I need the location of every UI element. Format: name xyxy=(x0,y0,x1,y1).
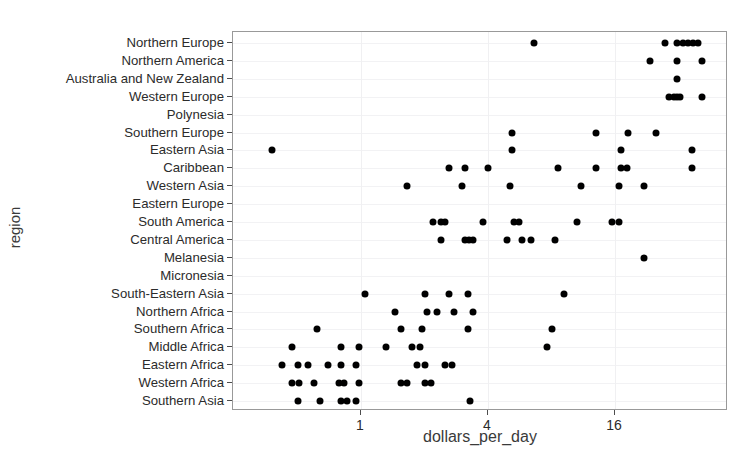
data-point xyxy=(464,290,471,297)
data-point xyxy=(647,57,654,64)
y-axis-tick-label-southern-europe: Southern Europe xyxy=(26,125,224,138)
data-point xyxy=(470,236,477,243)
gridline-vertical xyxy=(488,32,489,409)
gridline-horizontal xyxy=(233,329,726,330)
data-point xyxy=(416,344,423,351)
data-point xyxy=(699,57,706,64)
data-point xyxy=(674,75,681,82)
y-axis-tick-label-northern-europe: Northern Europe xyxy=(26,36,224,49)
data-point xyxy=(694,40,701,47)
data-point xyxy=(392,308,399,315)
data-point xyxy=(458,183,465,190)
y-axis-tick-mark xyxy=(227,382,232,383)
data-point xyxy=(592,129,599,136)
gridline-horizontal xyxy=(233,168,726,169)
data-point xyxy=(592,165,599,172)
data-point xyxy=(448,362,455,369)
y-axis-tick-mark xyxy=(227,132,232,133)
y-axis-tick-label-western-asia: Western Asia xyxy=(26,179,224,192)
data-point xyxy=(551,236,558,243)
data-point xyxy=(288,344,295,351)
data-point xyxy=(434,308,441,315)
data-point xyxy=(403,380,410,387)
y-axis-tick-label-micronesia: Micronesia xyxy=(26,268,224,281)
gridline-horizontal xyxy=(233,186,726,187)
data-point xyxy=(362,290,369,297)
gridline-horizontal xyxy=(233,258,726,259)
data-point xyxy=(294,398,301,405)
data-point xyxy=(278,362,285,369)
data-point xyxy=(398,326,405,333)
y-axis-title-text: region xyxy=(7,207,24,249)
data-point xyxy=(356,344,363,351)
data-point xyxy=(688,165,695,172)
data-point xyxy=(561,290,568,297)
data-point xyxy=(548,326,555,333)
data-point xyxy=(530,40,537,47)
data-point xyxy=(311,380,318,387)
y-axis-tick-mark xyxy=(227,257,232,258)
data-point xyxy=(625,129,632,136)
data-point xyxy=(294,362,301,369)
y-axis-tick-label-southern-asia: Southern Asia xyxy=(26,394,224,407)
data-point xyxy=(428,380,435,387)
y-axis-tick-label-northern-america: Northern America xyxy=(26,53,224,66)
gridline-horizontal xyxy=(233,204,726,205)
gridline-horizontal xyxy=(233,43,726,44)
y-axis-tick-label-western-europe: Western Europe xyxy=(26,89,224,102)
y-axis-tick-label-south-america: South America xyxy=(26,215,224,228)
data-point xyxy=(509,147,516,154)
data-point xyxy=(445,290,452,297)
y-axis-tick-label-southern-africa: Southern Africa xyxy=(26,322,224,335)
y-axis-tick-label-northern-africa: Northern Africa xyxy=(26,304,224,317)
data-point xyxy=(403,183,410,190)
data-point xyxy=(676,93,683,100)
data-point xyxy=(485,165,492,172)
y-axis-tick-mark xyxy=(227,78,232,79)
data-point xyxy=(503,236,510,243)
data-point xyxy=(441,362,448,369)
data-point xyxy=(304,362,311,369)
data-point xyxy=(450,308,457,315)
y-axis-tick-mark xyxy=(227,275,232,276)
y-axis-tick-mark xyxy=(227,167,232,168)
x-axis-tick-mark xyxy=(360,410,361,415)
x-axis-title: dollars_per_day xyxy=(232,428,728,446)
gridline-horizontal xyxy=(233,240,726,241)
data-point xyxy=(464,326,471,333)
y-axis-tick-label-eastern-asia: Eastern Asia xyxy=(26,143,224,156)
data-point xyxy=(423,308,430,315)
y-axis-tick-mark xyxy=(227,364,232,365)
data-point xyxy=(461,165,468,172)
data-point xyxy=(609,219,616,226)
data-point xyxy=(337,362,344,369)
data-point xyxy=(421,290,428,297)
data-point xyxy=(543,344,550,351)
data-point xyxy=(409,344,416,351)
y-axis-tick-mark xyxy=(227,185,232,186)
x-axis-tick-mark xyxy=(614,410,615,415)
data-point xyxy=(467,398,474,405)
gridline-vertical xyxy=(361,32,362,409)
y-axis-tick-label-south-eastern-asia: South-Eastern Asia xyxy=(26,286,224,299)
gridline-horizontal xyxy=(233,150,726,151)
data-point xyxy=(515,219,522,226)
data-point xyxy=(438,236,445,243)
y-axis-tick-label-central-america: Central America xyxy=(26,232,224,245)
y-axis-tick-mark xyxy=(227,400,232,401)
x-axis-tick-mark xyxy=(487,410,488,415)
data-point xyxy=(652,129,659,136)
data-point xyxy=(507,183,514,190)
data-point xyxy=(519,236,526,243)
data-point xyxy=(317,398,324,405)
y-axis-tick-labels: Northern EuropeNorthern AmericaAustralia… xyxy=(26,0,224,455)
data-point xyxy=(314,326,321,333)
y-axis-tick-mark xyxy=(227,149,232,150)
data-point xyxy=(383,344,390,351)
data-point xyxy=(574,219,581,226)
gridline-horizontal xyxy=(233,97,726,98)
data-point xyxy=(617,147,624,154)
data-point xyxy=(414,362,421,369)
gridline-horizontal xyxy=(233,294,726,295)
gridline-horizontal xyxy=(233,276,726,277)
